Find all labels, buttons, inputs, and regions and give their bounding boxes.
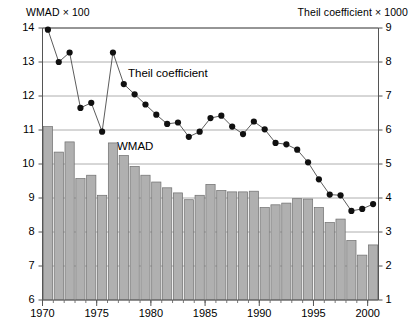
plot-area: [0, 0, 418, 327]
x-axis-ticks: [43, 300, 368, 306]
wmad-bars: [43, 127, 377, 300]
chart-container: WMAD × 100 Theil coefficient × 1000 1413…: [0, 0, 418, 327]
right-axis-ticks: [379, 28, 383, 300]
left-axis-ticks: [39, 28, 43, 300]
